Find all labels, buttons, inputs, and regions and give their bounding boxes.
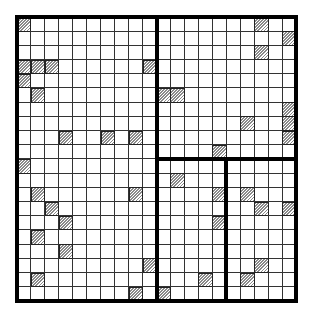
grid-cell [268,74,282,89]
grid-cell [226,116,240,131]
grid-cell [101,88,115,103]
grid-cell [87,230,101,245]
grid-cell [254,273,268,288]
grid-cell [254,31,268,46]
grid-cell [115,116,129,131]
grid-cell [87,145,101,160]
grid-cell [157,159,171,174]
grid-cell [268,159,282,174]
grid-cell [73,159,87,174]
grid-cell [198,202,212,217]
hatched-cell [17,60,31,75]
grid-cell [115,145,129,160]
grid-cell [254,74,268,89]
grid-cell [17,116,31,131]
border-left [15,15,19,303]
grid-cell [184,60,198,75]
grid-cell [59,258,73,273]
grid-cell [59,74,73,89]
grid-cell [59,173,73,188]
grid-cell [115,258,129,273]
hatched-cell [17,17,31,32]
hatched-cell [170,88,184,103]
grid-cell [101,74,115,89]
grid-cell [59,159,73,174]
grid-cell [170,273,184,288]
grid-cell [198,31,212,46]
grid-cell [184,202,198,217]
grid-cell [59,60,73,75]
grid-cell [73,74,87,89]
grid-cell [268,216,282,231]
grid-cell [129,74,143,89]
grid-cell [73,216,87,231]
grid-cell [101,273,115,288]
grid-cell [254,88,268,103]
grid-cell [157,273,171,288]
grid-cell [268,202,282,217]
grid-cell [101,116,115,131]
grid-cell [31,244,45,259]
grid-cell [115,31,129,46]
grid-cell [73,60,87,75]
grid-cell [17,216,31,231]
grid-cell [240,45,254,60]
grid-cell [184,74,198,89]
hatched-cell [31,273,45,288]
grid-cell [240,258,254,273]
grid-cell [170,131,184,146]
grid-cell [226,88,240,103]
partitioned-grid [17,17,296,301]
hatched-cell [240,116,254,131]
grid-cell [240,244,254,259]
grid-cell [198,173,212,188]
grid-cell [115,159,129,174]
grid-cell [101,244,115,259]
grid-cell [226,31,240,46]
hatched-cell [254,202,268,217]
hatched-cell [59,216,73,231]
grid-cell [129,230,143,245]
grid-cell [59,45,73,60]
grid-cell [240,131,254,146]
grid-cell [170,17,184,32]
grid-cell [212,88,226,103]
grid-cell [157,258,171,273]
grid-cell [198,45,212,60]
grid-cell [170,244,184,259]
hatched-cell [17,159,31,174]
grid-cell [226,173,240,188]
grid-cell [45,74,59,89]
grid-cell [59,116,73,131]
grid-cell [87,17,101,32]
grid-cell [212,131,226,146]
grid-cell [226,74,240,89]
grid-cell [59,187,73,202]
grid-cell [17,258,31,273]
grid-cell [157,74,171,89]
grid-cell [157,187,171,202]
grid-cell [240,159,254,174]
grid-cell [170,216,184,231]
grid-cell [101,216,115,231]
grid-cell [226,131,240,146]
grid-cell [101,102,115,117]
grid-cell [157,202,171,217]
grid-cell [45,230,59,245]
grid-cell [198,216,212,231]
grid-cell [129,145,143,160]
grid-cell [184,116,198,131]
grid-cell [45,102,59,117]
grid-cell [129,173,143,188]
grid-cell [268,31,282,46]
grid-cell [73,17,87,32]
hatched-cell [31,187,45,202]
hatched-cell [254,258,268,273]
grid-cell [184,258,198,273]
hatched-cell [240,273,254,288]
grid-cell [254,187,268,202]
grid-cell [87,216,101,231]
grid-cell [115,131,129,146]
grid-cell [45,173,59,188]
grid-cell [268,273,282,288]
